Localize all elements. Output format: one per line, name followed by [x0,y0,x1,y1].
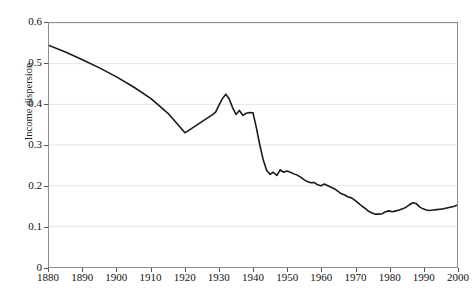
x-tick-mark [458,268,459,272]
x-tick-mark [253,268,254,272]
x-tick-mark [356,268,357,272]
x-tick-mark [185,268,186,272]
x-tick-label: 2000 [435,272,475,283]
x-tick-mark [219,268,220,272]
y-axis-title: Income dispersion [23,22,34,182]
x-tick-mark [287,268,288,272]
x-tick-mark [151,268,152,272]
x-tick-mark [424,268,425,272]
chart-figure: 00.10.20.30.40.50.6 18801890190019101920… [0,0,475,304]
x-tick-mark [82,268,83,272]
x-axis-ticks: 1880189019001910192019301940195019601970… [0,0,475,304]
x-tick-mark [321,268,322,272]
x-tick-mark [48,268,49,272]
x-tick-mark [116,268,117,272]
x-tick-mark [390,268,391,272]
